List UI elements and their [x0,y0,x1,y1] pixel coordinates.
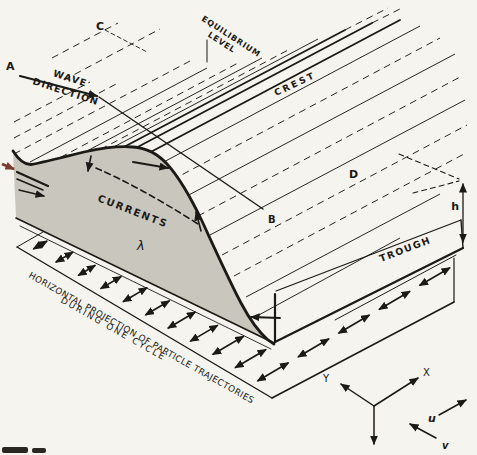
label-wave-direction: WAVE DIRECTION [31,62,104,107]
hidden-edge-dash-top [399,154,459,179]
axis-y-arrow [341,384,374,406]
platform-se-edge [272,302,454,398]
cropped-caption-fragment [2,447,46,453]
red-entry-arrow [2,164,14,169]
axes-triad [341,378,466,444]
label-axis-x: X [423,367,430,378]
hidden-edge-dash-low [413,181,459,193]
label-vel-v: v [442,440,449,451]
label-point-b: B [268,214,276,225]
axis-x-arrow [374,378,418,406]
trough-band-bottom-edge [275,248,463,342]
label-equilibrium-level: EQUILIBRIUM LEVEL [194,14,262,67]
label-depth-h: h [451,200,459,213]
label-axis-y: Y [322,373,330,384]
label-vel-u: u [428,412,436,425]
label-point-a: A [6,60,15,73]
caption-projection-line2: DURING ONE CYCLE [59,295,168,363]
label-point-c: C [96,20,104,33]
trough-back-arrow [251,317,280,318]
vel-v-arrow [410,424,436,438]
figure-canvas: A C B D WAVE DIRECTION EQUILIBRIUM LEVEL… [0,0,477,455]
c-plane-leader [105,30,147,52]
label-point-d: D [349,168,358,181]
vel-u-arrow [439,400,466,415]
scanned-wave-diagram: A C B D WAVE DIRECTION EQUILIBRIUM LEVEL… [0,0,477,455]
label-lambda: λ [136,238,145,253]
trough-band-top-edge [276,220,461,291]
